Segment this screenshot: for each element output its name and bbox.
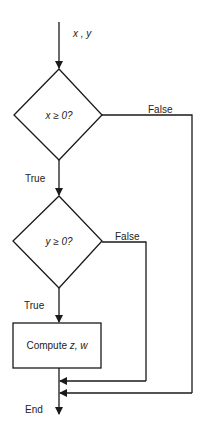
flowchart: x , y x ≥ 0? False True y ≥ 0? False Tru… — [0, 0, 202, 428]
true-label-2: True — [24, 300, 45, 311]
compute-text: Compute z, w — [26, 340, 88, 351]
decision-x-text: x ≥ 0? — [44, 110, 73, 121]
false-label-1: False — [148, 104, 173, 115]
false-path-2 — [102, 242, 146, 381]
input-label: x , y — [72, 28, 92, 39]
false-path-1 — [102, 115, 192, 393]
false-label-2: False — [115, 231, 140, 242]
true-label-1: True — [25, 173, 46, 184]
end-label: End — [25, 404, 43, 415]
decision-y-text: y ≥ 0? — [44, 236, 73, 247]
